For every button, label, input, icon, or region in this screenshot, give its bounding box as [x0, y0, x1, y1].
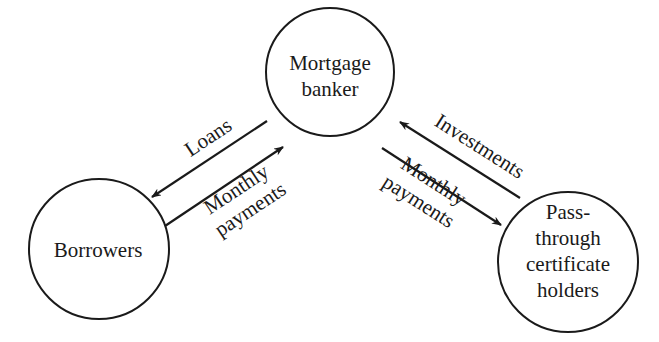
flow-diagram: Mortgage banker Borrowers Pass- through …	[0, 0, 659, 342]
node-mortgage-banker: Mortgage banker	[266, 8, 394, 136]
borrowers-label: Borrowers	[54, 238, 143, 262]
flow-borrower-payments: Monthly payments	[165, 147, 290, 241]
node-pass-through-holders: Pass- through certificate holders	[498, 192, 638, 332]
mortgage-banker-label-line2: banker	[301, 77, 358, 101]
loans-label: Loans	[180, 113, 236, 161]
pass-through-label-line2: through	[535, 226, 601, 250]
pass-through-label-line4: holders	[537, 278, 599, 302]
mortgage-banker-label-line1: Mortgage	[289, 51, 371, 75]
node-borrowers: Borrowers	[29, 179, 169, 319]
pass-through-label-line3: certificate	[526, 252, 610, 276]
pass-through-label-line1: Pass-	[546, 200, 590, 224]
